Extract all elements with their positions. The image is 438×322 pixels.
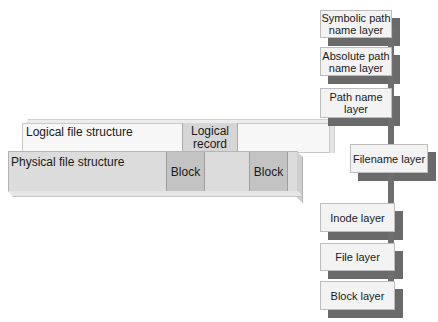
layer-label-line1: Absolute path: [322, 50, 389, 62]
layer-label-line2: name layer: [329, 24, 383, 36]
logical-file-structure: Logical file structure: [22, 123, 330, 153]
layer-label: Inode layer: [330, 212, 384, 224]
layer-label: Filename layer: [353, 153, 425, 165]
layer-label-line2: name layer: [329, 62, 383, 74]
logical-record-line2: record: [183, 138, 237, 151]
file-layer-box: File layer: [320, 243, 395, 271]
layer-label: File layer: [335, 251, 380, 263]
block-2-label: Block: [254, 165, 283, 179]
layer-label: Block layer: [331, 290, 385, 302]
inode-layer-box: Inode layer: [320, 203, 395, 232]
physical-file-structure-label: Physical file structure: [11, 156, 124, 169]
physical-band-bottom: [8, 191, 303, 197]
block-1-label: Block: [171, 165, 200, 179]
block-1: Block: [166, 152, 205, 191]
block-2: Block: [249, 152, 288, 191]
filename-layer-box: Filename layer: [350, 144, 428, 173]
block-layer-box: Block layer: [320, 281, 395, 310]
symbolic-path-name-layer-box: Symbolic path name layer: [320, 10, 392, 38]
path-name-layer-box: Path name layer: [320, 88, 392, 118]
layer-label-line1: Path name: [329, 91, 382, 103]
absolute-path-name-layer-box: Absolute path name layer: [320, 47, 392, 76]
logical-record: Logical record: [182, 123, 238, 152]
layer-label-line2: layer: [344, 103, 368, 115]
layer-label-line1: Symbolic path: [321, 12, 390, 24]
logical-file-structure-label: Logical file structure: [26, 126, 133, 139]
